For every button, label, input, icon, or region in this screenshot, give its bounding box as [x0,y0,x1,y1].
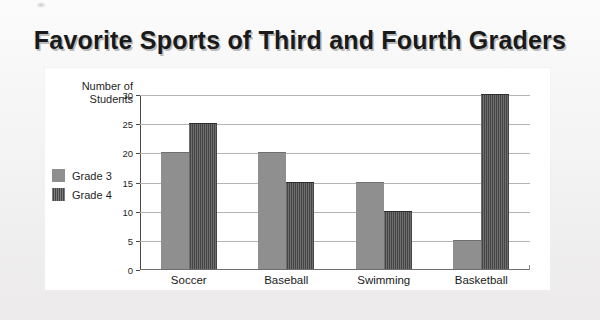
tick-mark-15 [136,183,140,184]
tick-mark-20 [136,153,140,154]
y-axis-title: Number of Students [53,80,133,106]
legend-swatch-grade-3 [52,169,65,182]
bar-baseball-grade-3 [258,152,286,269]
y-tick-label-20: 20 [122,148,133,159]
x-axis-label-baseball: Baseball [264,274,308,286]
y-tick-label-25: 25 [122,119,133,130]
y-tick-label-5: 5 [128,235,133,246]
x-axis-label-basketball: Basketball [455,274,508,286]
tick-mark-10 [136,212,140,213]
bar-group-swimming [356,182,412,270]
bar-group-basketball [453,94,509,269]
bar-basketball-grade-3 [453,240,481,269]
bar-group-soccer [161,123,217,269]
legend-label-grade-4: Grade 4 [72,189,112,201]
y-tick-label-10: 10 [122,206,133,217]
x-axis-label-soccer: Soccer [171,274,207,286]
scan-artifact [36,2,46,8]
bar-swimming-grade-3 [356,182,384,270]
x-axis-label-swimming: Swimming [357,274,410,286]
y-tick-label-15: 15 [122,177,133,188]
bar-soccer-grade-3 [161,152,189,269]
bar-baseball-grade-4 [286,182,314,270]
chart-card: Number of Students Grade 3 Grade 4 05101… [45,68,550,290]
tick-mark-5 [136,241,140,242]
y-axis-title-line-1: Number of [53,80,133,93]
tick-mark-30 [136,95,140,96]
y-axis-title-line-2: Students [53,93,133,106]
bar-basketball-grade-4 [481,94,509,269]
chart-title: Favorite Sports of Third and Fourth Grad… [0,26,600,55]
tick-mark-25 [136,124,140,125]
tick-mark-0 [136,270,140,271]
y-tick-label-0: 0 [128,265,133,276]
bar-group-baseball [258,152,314,269]
plot-area: 051015202530 [140,95,530,270]
bar-soccer-grade-4 [189,123,217,269]
gridline-0 [140,270,530,271]
legend-swatch-grade-4 [52,188,65,201]
y-tick-label-30: 30 [122,90,133,101]
bar-swimming-grade-4 [384,211,412,269]
legend-label-grade-3: Grade 3 [72,170,112,182]
